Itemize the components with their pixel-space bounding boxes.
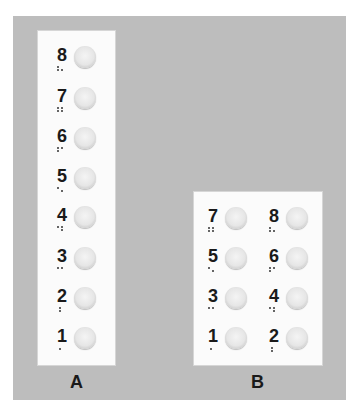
braille-icon: [268, 307, 280, 315]
braille-icon: [56, 66, 68, 74]
floor-number: 4: [54, 205, 70, 225]
floor-button-5[interactable]: [74, 167, 96, 189]
elevator-panel-b: 7 8 5 6 3 4 1 2: [193, 191, 323, 366]
braille-icon: [207, 347, 219, 355]
floor-button-3[interactable]: [74, 247, 96, 269]
braille-icon: [56, 307, 68, 315]
floor-key-6[interactable]: 6: [266, 244, 326, 276]
floor-key-7[interactable]: 7: [54, 84, 114, 116]
floor-number: 2: [54, 286, 70, 306]
floor-button-3[interactable]: [225, 287, 247, 309]
floor-key-3[interactable]: 3: [205, 284, 265, 316]
floor-key-2[interactable]: 2: [266, 324, 326, 356]
floor-number: 1: [54, 326, 70, 346]
braille-icon: [268, 347, 280, 355]
braille-icon: [56, 347, 68, 355]
floor-number: 8: [54, 45, 70, 65]
floor-button-8[interactable]: [286, 207, 308, 229]
floor-key-5[interactable]: 5: [54, 164, 114, 196]
floor-key-1[interactable]: 1: [54, 324, 114, 356]
floor-button-4[interactable]: [74, 206, 96, 228]
floor-button-1[interactable]: [225, 327, 247, 349]
braille-icon: [207, 307, 219, 315]
floor-number: 4: [266, 286, 282, 306]
floor-number: 8: [266, 206, 282, 226]
floor-button-8[interactable]: [74, 46, 96, 68]
braille-icon: [56, 107, 68, 115]
floor-button-7[interactable]: [225, 207, 247, 229]
floor-key-7[interactable]: 7: [205, 204, 265, 236]
floor-key-5[interactable]: 5: [205, 244, 265, 276]
floor-number: 3: [54, 246, 70, 266]
braille-icon: [56, 147, 68, 155]
panel-label-b: B: [251, 372, 264, 393]
braille-icon: [207, 267, 219, 275]
floor-key-6[interactable]: 6: [54, 124, 114, 156]
floor-key-8[interactable]: 8: [54, 43, 114, 75]
floor-button-2[interactable]: [286, 327, 308, 349]
floor-number: 6: [266, 246, 282, 266]
floor-button-6[interactable]: [74, 127, 96, 149]
floor-button-5[interactable]: [225, 247, 247, 269]
floor-key-1[interactable]: 1: [205, 324, 265, 356]
braille-icon: [268, 227, 280, 235]
floor-number: 5: [54, 166, 70, 186]
floor-number: 2: [266, 326, 282, 346]
braille-icon: [56, 187, 68, 195]
floor-key-3[interactable]: 3: [54, 244, 114, 276]
braille-icon: [207, 227, 219, 235]
floor-key-4[interactable]: 4: [266, 284, 326, 316]
braille-icon: [56, 267, 68, 275]
floor-button-7[interactable]: [74, 87, 96, 109]
floor-key-4[interactable]: 4: [54, 203, 114, 235]
braille-icon: [56, 226, 68, 234]
elevator-panel-a: 8 7 6 5 4 3 2 1: [37, 30, 116, 366]
floor-key-2[interactable]: 2: [54, 284, 114, 316]
floor-number: 5: [205, 246, 221, 266]
floor-number: 3: [205, 286, 221, 306]
floor-button-2[interactable]: [74, 287, 96, 309]
floor-number: 7: [205, 206, 221, 226]
floor-button-4[interactable]: [286, 287, 308, 309]
floor-number: 7: [54, 86, 70, 106]
braille-icon: [268, 267, 280, 275]
floor-key-8[interactable]: 8: [266, 204, 326, 236]
panel-label-a: A: [70, 372, 83, 393]
floor-number: 1: [205, 326, 221, 346]
floor-button-6[interactable]: [286, 247, 308, 269]
floor-button-1[interactable]: [74, 327, 96, 349]
floor-number: 6: [54, 126, 70, 146]
